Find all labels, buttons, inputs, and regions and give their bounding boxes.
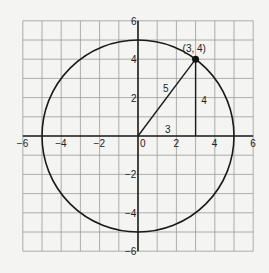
point-label: (3, 4) [183,43,206,54]
y-tick-label: −6 [125,246,137,257]
y-tick-label: 2 [131,93,137,104]
hypotenuse-label: 5 [163,83,169,94]
coordinate-plane: (3, 4) 5 4 3 −6−4−20246 642−2−4−6 [0,0,269,273]
x-tick-label: −6 [17,138,29,149]
point-3-4 [192,56,199,63]
horizontal-leg-label: 3 [165,124,171,135]
x-tick-labels: −6−4−20246 [17,138,256,149]
x-tick-label: −2 [94,138,106,149]
vertical-leg-label: 4 [201,95,207,106]
x-tick-label: 2 [173,138,179,149]
y-tick-label: 6 [131,16,137,27]
x-tick-label: −4 [55,138,67,149]
y-tick-label: −2 [125,169,137,180]
x-tick-label: 0 [140,138,146,149]
x-tick-label: 6 [250,138,256,149]
y-tick-label: 4 [131,54,137,65]
x-tick-label: 4 [212,138,218,149]
y-tick-label: −4 [125,208,137,219]
